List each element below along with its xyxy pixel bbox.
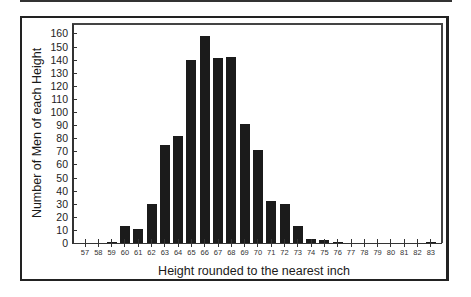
y-tick-mark [74, 217, 77, 218]
y-tick-label: 160 [38, 28, 68, 38]
y-tick-mark [74, 86, 77, 87]
plot-border-top [72, 23, 442, 25]
y-tick-mark [74, 112, 77, 113]
y-tick-mark [74, 99, 77, 100]
x-tick-label: 83 [423, 249, 439, 257]
x-axis-line [72, 243, 442, 244]
bar-68 [226, 57, 236, 243]
y-tick-mark [74, 73, 77, 74]
y-tick-label: 10 [38, 225, 68, 235]
y-tick-label: 0 [38, 238, 68, 248]
bar-71 [266, 201, 276, 243]
y-tick-mark [74, 164, 77, 165]
y-axis-line [72, 24, 74, 244]
top-rule [20, 0, 452, 2]
y-tick-mark [74, 33, 77, 34]
bar-70 [253, 150, 263, 243]
bar-69 [240, 124, 250, 243]
y-tick-mark [74, 125, 77, 126]
y-tick-mark [74, 230, 77, 231]
bar-72 [280, 204, 290, 243]
bar-65 [186, 60, 196, 243]
bar-62 [147, 204, 157, 243]
bar-64 [173, 136, 183, 243]
x-axis-title: Height rounded to the nearest inch [158, 264, 350, 278]
y-tick-mark [74, 204, 77, 205]
bar-63 [160, 145, 170, 243]
y-tick-mark [74, 138, 77, 139]
y-tick-mark [74, 60, 77, 61]
plot-border-right [441, 23, 443, 243]
bar-66 [200, 36, 210, 243]
y-axis-title: Number of Men of each Height [30, 48, 44, 218]
y-tick-mark [74, 191, 77, 192]
y-tick-mark [74, 47, 77, 48]
y-tick-mark [74, 151, 77, 152]
y-tick-mark [74, 178, 77, 179]
bar-67 [213, 58, 223, 243]
